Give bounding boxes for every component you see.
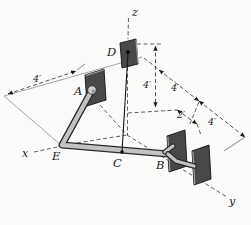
x-axis-label: x [22,147,29,160]
z-axis-line [128,18,129,39]
point-label-a: A [73,84,82,98]
frame-cable-diagram: z x y D A E C B 4′ 4′ 4′ 4′ 2′ [0,0,251,225]
dim-back-lower-extension [224,137,245,151]
dim-back-lower [199,101,245,137]
dim-label-ground-left: 4′ [32,73,42,84]
ball-joint-a [88,86,97,95]
dim-ground-left [8,71,76,94]
point-label-e: E [51,149,61,163]
offset-extension [197,124,201,135]
corner-link [144,58,158,69]
point-label-b: B [155,158,164,172]
dim-label-back-lower: 4′ [207,116,217,127]
ball-joint-a-shade [92,90,95,93]
mid-extension [189,102,199,126]
ground-plane-edges [4,57,142,146]
a-projection-line [100,105,126,134]
dim-label-plate-offset: 2′ [176,109,186,120]
dim-ground-left-extension [77,64,85,70]
back-projection-line [128,110,177,113]
z-axis-label: z [131,6,138,19]
point-label-d: D [106,45,116,59]
dim-label-height-d: 4′ [142,79,152,90]
point-label-c: C [113,156,122,170]
dim-label-back-upper: 4′ [170,82,180,93]
y-axis-label: y [228,195,236,208]
statics-figure: z x y D A E C B 4′ 4′ 4′ 4′ 2′ [0,0,251,225]
point-c-dot [120,150,124,154]
